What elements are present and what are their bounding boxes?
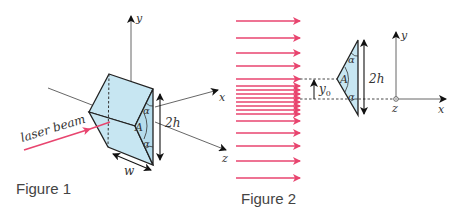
fig1-x-axis: [155, 90, 218, 107]
fig2-x-label: x: [438, 103, 445, 116]
laser-beam-label: laser beam: [19, 112, 87, 145]
fig2-alpha-bottom: α: [348, 91, 355, 102]
fig1-apex-label: A: [134, 121, 143, 134]
fig1-width-label: w: [124, 164, 135, 178]
fig2-alpha-top: α: [348, 54, 355, 65]
fig2-z-axis-dot: [395, 98, 396, 99]
fig1-z-label: z: [221, 152, 228, 165]
figure-1-caption: Figure 1: [16, 180, 71, 197]
fig2-apex-label: A: [339, 73, 348, 86]
fig2-z-label: z: [391, 102, 398, 115]
fig2-y-label: y: [400, 29, 408, 42]
fig1-alpha-bottom: α: [143, 138, 150, 149]
fig1-height-label: 2h: [164, 116, 180, 130]
fig2-height-label: 2h: [368, 72, 384, 86]
diagram-canvas: y x z α A α laser beam 2h w Figure 1: [0, 0, 463, 207]
fig1-x-label: x: [219, 91, 226, 104]
fig2-offset-label: y0: [318, 82, 331, 98]
figure-2: [236, 21, 300, 178]
fig1-alpha-top: α: [143, 105, 150, 116]
fig1-x-axis-back: [48, 88, 92, 105]
figure-1: y x z α A α laser beam 2h w Figure 1: [16, 12, 228, 197]
figure-2-geometry: y0 α A α 2h y x z Figure 2: [241, 29, 446, 207]
figure-2-caption: Figure 2: [241, 190, 296, 207]
fig1-y-label: y: [135, 12, 143, 25]
